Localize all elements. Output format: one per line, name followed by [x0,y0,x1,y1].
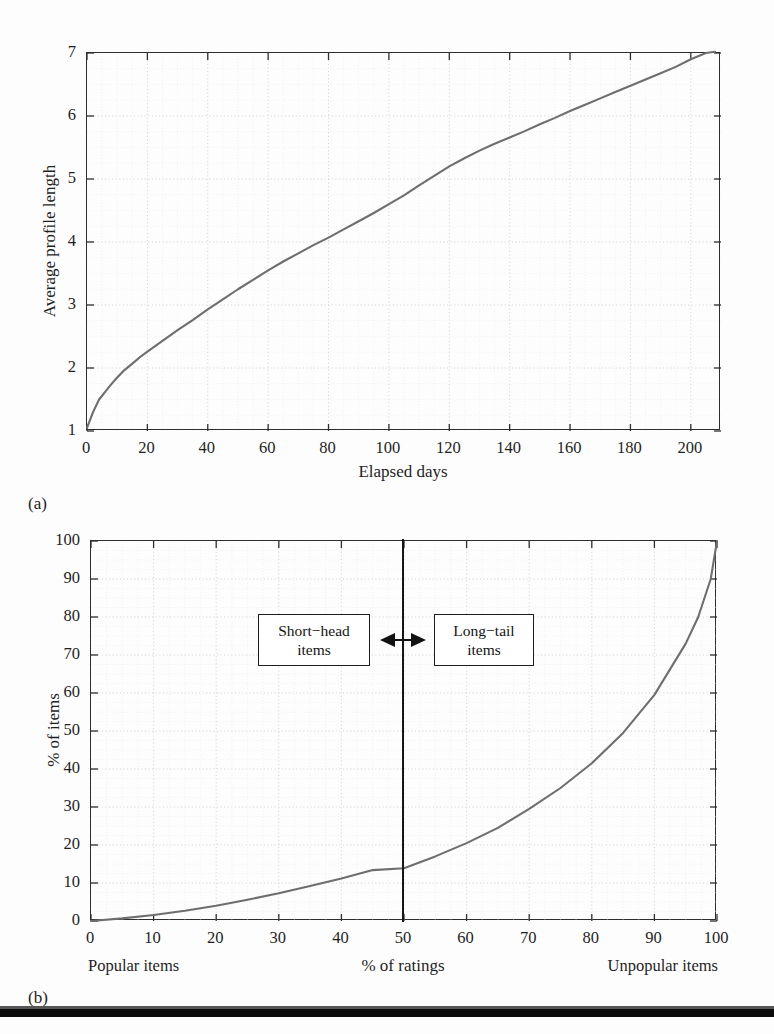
right-corner-label-b: Unpopular items [608,956,718,976]
bottom-rule [0,1009,774,1017]
x-axis-title-a: Elapsed days [358,462,447,482]
short-head-long-tail-divider [402,539,404,922]
y-tick-label: 90 [0,570,80,587]
annotation-long-tail-line2: items [467,640,501,659]
y-tick-label: 60 [0,684,80,701]
x-tick-label: 50 [395,930,412,947]
x-tick-label: 90 [645,930,662,947]
x-tick-label: 20 [207,930,224,947]
annotation-short-head-line2: items [297,640,331,659]
panel-b: Short−head items Long−tail items 01 [0,520,774,1034]
x-tick-label: 80 [319,440,336,457]
x-tick-label: 200 [677,440,702,457]
x-tick-label: 0 [86,930,94,947]
y-tick-label: 20 [0,836,80,853]
y-tick-label: 50 [0,722,80,739]
chart-a-canvas [87,53,721,431]
y-tick-label: 0 [0,912,80,929]
x-tick-label: 0 [82,440,90,457]
annotation-short-head-line1: Short−head [278,621,350,640]
y-tick-label: 10 [0,874,80,891]
x-tick-label: 70 [520,930,537,947]
y-tick-label: 80 [0,608,80,625]
y-tick-label: 100 [0,532,80,549]
annotation-box-short-head: Short−head items [258,614,370,666]
x-tick-label: 120 [436,440,461,457]
x-tick-label: 40 [199,440,216,457]
y-tick-label: 40 [0,760,80,777]
x-tick-label: 30 [270,930,287,947]
x-tick-label: 140 [496,440,521,457]
x-tick-label: 20 [138,440,155,457]
annotation-long-tail-line1: Long−tail [453,621,514,640]
plot-area-a [86,52,720,430]
y-tick-label: 1 [0,422,76,439]
y-tick-label: 5 [0,170,76,187]
figure-page: 1234567 020406080100120140160180200 Elap… [0,0,774,1034]
y-tick-label: 3 [0,296,76,313]
left-corner-label-b: Popular items [88,956,179,976]
x-tick-label: 100 [376,440,401,457]
y-tick-label: 6 [0,107,76,124]
x-tick-label: 10 [144,930,161,947]
panel-a: 1234567 020406080100120140160180200 Elap… [0,0,774,520]
y-tick-label: 70 [0,646,80,663]
y-axis-title-b: % of items [44,693,64,767]
y-tick-label: 7 [0,44,76,61]
y-tick-label: 4 [0,233,76,250]
x-tick-label: 60 [457,930,474,947]
x-tick-label: 180 [617,440,642,457]
x-tick-label: 100 [704,930,729,947]
x-tick-label: 60 [259,440,276,457]
y-tick-label: 30 [0,798,80,815]
caption-a: (a) [28,494,47,514]
x-tick-label: 80 [583,930,600,947]
x-axis-title-b: % of ratings [361,956,444,976]
double-arrow-icon [372,630,434,650]
x-tick-label: 40 [332,930,349,947]
annotation-box-long-tail: Long−tail items [434,614,534,666]
caption-b: (b) [28,988,48,1008]
y-axis-title-a: Average profile length [40,165,60,318]
x-tick-label: 160 [557,440,582,457]
y-tick-label: 2 [0,359,76,376]
